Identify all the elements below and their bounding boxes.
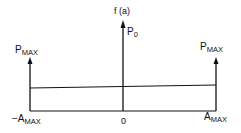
x-tick-left: −AMAX [12, 114, 41, 124]
pmax-left-main: P [15, 44, 22, 55]
left-impulse-label: PMAX [15, 45, 38, 55]
right-arrowhead-icon [214, 57, 219, 64]
y-axis-label: f (a) [114, 7, 130, 16]
center-impulse-label: P0 [127, 27, 138, 37]
left-arrowhead-icon [28, 57, 33, 64]
center-arrowhead-icon [121, 20, 126, 28]
x-tick-right: AMAX [204, 112, 227, 122]
right-impulse-label: PMAX [200, 42, 223, 52]
pmax-right-sub: MAX [207, 45, 223, 54]
neg-amax-sub: MAX [25, 117, 41, 126]
p0-sub: 0 [134, 30, 138, 39]
pmax-right-main: P [200, 41, 207, 52]
neg-amax-main: −A [12, 113, 25, 124]
x-tick-center: 0 [121, 117, 126, 126]
amax-sub: MAX [211, 115, 227, 124]
pmax-left-sub: MAX [22, 48, 38, 57]
amax-main: A [204, 111, 211, 122]
p0-main: P [127, 26, 134, 37]
